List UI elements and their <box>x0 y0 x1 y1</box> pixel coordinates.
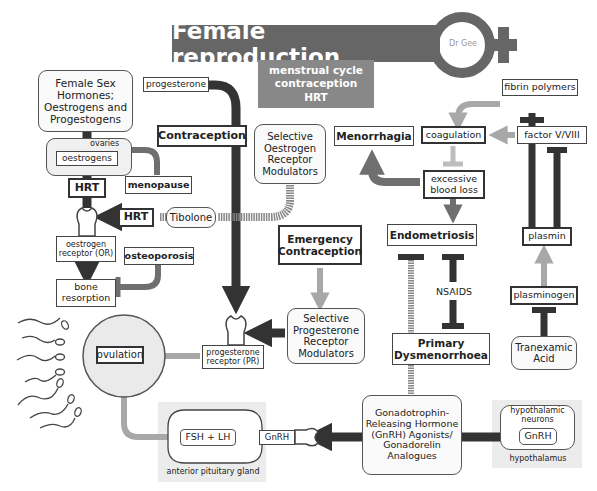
menopause-node[interactable]: menopause <box>125 176 192 194</box>
factor-v-viii-node[interactable]: factor V/VIII <box>517 126 587 144</box>
coagulation-node[interactable]: coagulation <box>421 126 486 144</box>
ovaries-label: ovaries <box>90 139 119 148</box>
osteoporosis-inhibit <box>118 265 158 287</box>
progesterone-receptor-node[interactable]: progesterone receptor (PR) <box>202 345 264 369</box>
subtitle: menstrual cycle contraception HRT <box>258 60 374 108</box>
subtitle-line: contraception <box>275 77 357 90</box>
osteoporosis-node[interactable]: osteoporosis <box>124 247 194 265</box>
subtitle-line: menstrual cycle <box>269 64 363 77</box>
hypothalamic-neurons-label: hypothalamic neurons <box>505 407 570 425</box>
progesterone-node[interactable]: progesterone <box>143 77 209 92</box>
primary-dysmenorrhoea-node[interactable]: Primary Dysmenorrhoea <box>392 333 490 365</box>
progesterone-receptor-shape <box>226 316 246 345</box>
fibrin-to-coagulation-arrow <box>458 104 500 122</box>
excessive-blood-loss-node[interactable]: excessive blood loss <box>423 170 485 199</box>
gnrh-left-node[interactable]: GnRH <box>259 430 295 445</box>
tranexamic-acid-node[interactable]: Tranexamic Acid <box>511 336 577 370</box>
bone-resorption-node[interactable]: bone resorption <box>56 279 116 307</box>
page-title: Female reproduction <box>172 25 440 62</box>
nsaids-label[interactable]: NSAIDS <box>432 286 476 297</box>
hrt-side-node[interactable]: HRT <box>118 208 154 227</box>
plasmin-node[interactable]: plasmin <box>522 227 572 246</box>
emergency-contraception-node[interactable]: Emergency Contraception <box>278 225 362 265</box>
hypothalamus-label: hypothalamus <box>497 454 579 463</box>
blood-loss-to-menorrhagia-arrow <box>372 162 420 182</box>
oestrogens-node[interactable]: oestrogens <box>56 151 118 166</box>
subtitle-line: HRT <box>304 91 328 104</box>
gnrh-receptor-shape <box>295 428 318 445</box>
fibrin-polymers-node[interactable]: fibrin polymers <box>502 79 578 96</box>
sprm-node[interactable]: Selective Progesterone Receptor Modulato… <box>287 308 365 364</box>
oestrogen-receptor-node[interactable]: oestrogen receptor (OR) <box>56 236 116 262</box>
gnrh-right-node[interactable]: GnRH <box>519 428 557 445</box>
sperm-icons <box>17 318 82 428</box>
menorrhagia-node[interactable]: Menorrhagia <box>334 126 414 146</box>
ovulation-node[interactable]: ovulation <box>96 346 144 364</box>
hrt-top-node[interactable]: HRT <box>68 178 106 198</box>
fsh-lh-node[interactable]: FSH + LH <box>180 429 236 446</box>
serm-node[interactable]: Selective Oestrogen Receptor Modulators <box>254 124 326 184</box>
oestrogen-receptor-shape <box>77 208 97 236</box>
gnrh-agonists-node[interactable]: Gonadotrophin-Releasing Hormone (GnRH) A… <box>362 395 462 475</box>
contraception-node[interactable]: Contraception <box>157 125 247 147</box>
serm-to-tibolone-link <box>218 185 290 217</box>
endometriosis-node[interactable]: Endometriosis <box>387 224 477 246</box>
progesterone-to-pr-arrow <box>188 85 236 300</box>
logo-text: Dr Gee <box>448 39 478 48</box>
female-sex-hormones-node[interactable]: Female Sex Hormones; Oestrogens and Prog… <box>38 70 133 132</box>
tibolone-node[interactable]: Tibolone <box>166 207 216 228</box>
plasminogen-node[interactable]: plasminogen <box>510 286 578 305</box>
anterior-pituitary-label: anterior pituitary gland <box>160 467 266 476</box>
